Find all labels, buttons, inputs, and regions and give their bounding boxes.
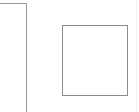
right-square-shape[interactable] (62, 25, 128, 96)
diagram-canvas (0, 0, 139, 112)
left-rectangle-shape[interactable] (0, 3, 27, 112)
right-edge-line (136, 0, 137, 112)
